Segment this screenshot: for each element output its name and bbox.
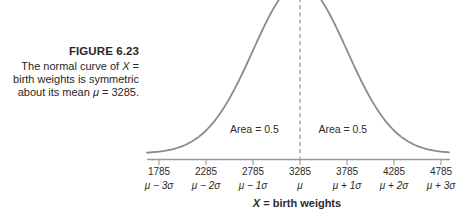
x-tick-label: 4285	[383, 166, 406, 177]
x-tick-label: 2785	[242, 166, 265, 177]
normal-curve-chart: 1785μ − 3σ2285μ − 2σ2785μ − 1σ3285μ3785μ…	[0, 0, 456, 216]
x-tick-sublabel: μ − 3σ	[144, 180, 174, 191]
x-tick-sublabel: μ	[296, 180, 303, 191]
x-tick-label: 3285	[289, 166, 312, 177]
x-axis-title: X = birth weights	[252, 197, 341, 209]
x-tick-sublabel: μ + 3σ	[426, 180, 456, 191]
x-tick-sublabel: μ − 2σ	[191, 180, 221, 191]
x-tick-label: 1785	[148, 166, 171, 177]
x-tick-label: 4785	[430, 166, 453, 177]
x-tick-sublabel: μ − 1σ	[238, 180, 268, 191]
x-tick-label: 2285	[195, 166, 218, 177]
figure-6-23: FIGURE 6.23 The normal curve of X = birt…	[0, 0, 456, 216]
normal-curve	[147, 0, 449, 153]
x-tick-sublabel: μ + 2σ	[379, 180, 409, 191]
area-annotation: Area = 0.5	[230, 123, 279, 135]
area-annotation: Area = 0.5	[318, 123, 367, 135]
x-tick-label: 3785	[336, 166, 359, 177]
x-tick-sublabel: μ + 1σ	[332, 180, 362, 191]
